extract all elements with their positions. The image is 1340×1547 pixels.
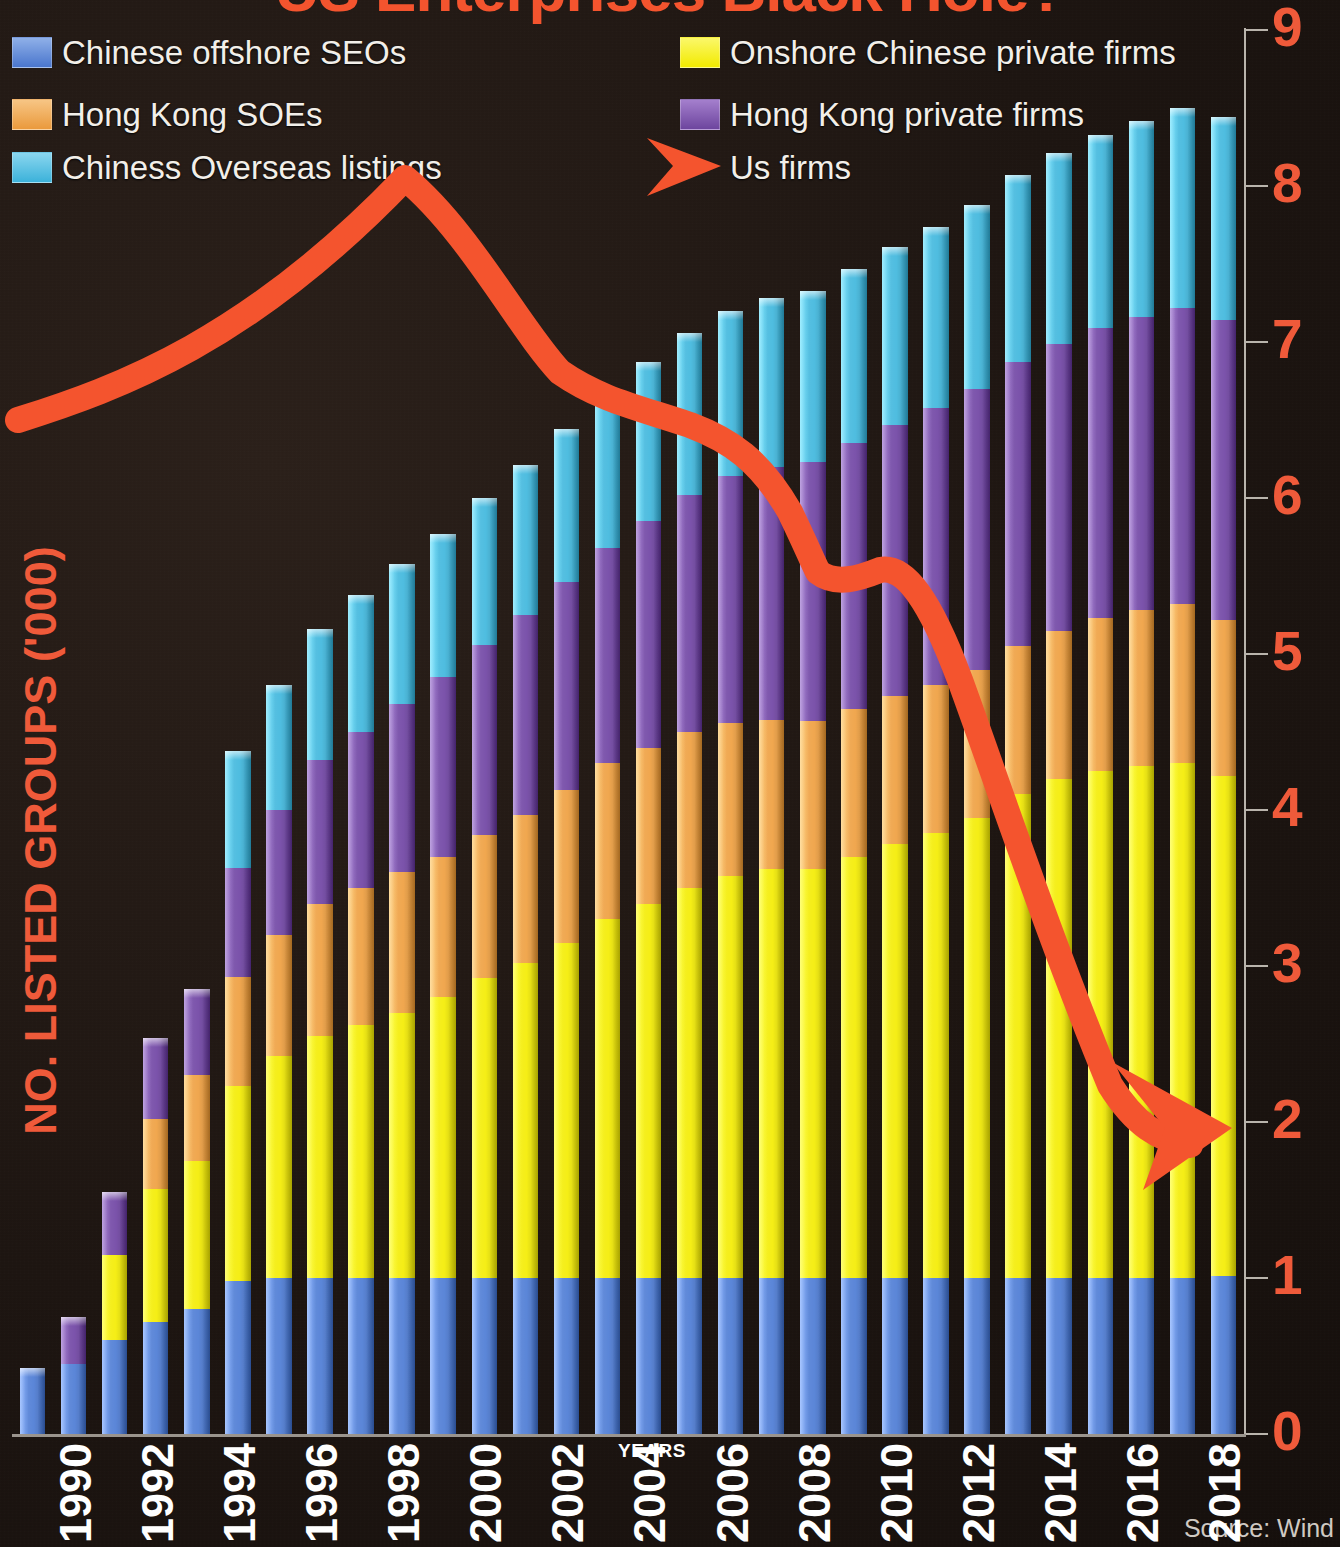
y-tick-label-9: 9 xyxy=(1272,0,1336,55)
bar-segment-chiness-overseas-listings xyxy=(595,392,620,548)
bar-2012[interactable] xyxy=(923,227,948,1434)
bar-segment-onshore-chinese-private-firms xyxy=(225,1086,250,1281)
bar-2002[interactable] xyxy=(513,465,538,1434)
bar-segment-onshore-chinese-private-firms xyxy=(102,1255,127,1341)
bar-segment-onshore-chinese-private-firms xyxy=(1211,776,1236,1277)
bar-segment-hong-kong-private-firms xyxy=(1046,344,1071,631)
bar-2014[interactable] xyxy=(1005,175,1030,1434)
bar-segment-hong-kong-soes xyxy=(348,888,373,1025)
bar-segment-chinese-offshore-seos xyxy=(636,1278,661,1434)
bar-segment-chinese-offshore-seos xyxy=(964,1278,989,1434)
y-axis-title: NO. LISTED GROUPS ('000) xyxy=(18,511,63,1171)
bar-segment-chiness-overseas-listings xyxy=(554,429,579,582)
bar-segment-hong-kong-soes xyxy=(430,857,455,997)
bar-segment-hong-kong-soes xyxy=(143,1119,168,1189)
bar-segment-onshore-chinese-private-firms xyxy=(800,869,825,1278)
bar-segment-hong-kong-private-firms xyxy=(389,704,414,872)
bar-2013[interactable] xyxy=(964,205,989,1434)
bar-segment-onshore-chinese-private-firms xyxy=(677,888,702,1278)
bar-2004[interactable] xyxy=(595,392,620,1434)
bar-segment-hong-kong-soes xyxy=(964,670,989,818)
y-tick-6 xyxy=(1246,497,1268,499)
bar-segment-chinese-offshore-seos xyxy=(20,1368,45,1434)
y-tick-0 xyxy=(1246,1433,1268,1435)
bar-2017[interactable] xyxy=(1129,121,1154,1434)
bar-1996[interactable] xyxy=(266,685,291,1434)
bar-1997[interactable] xyxy=(307,629,332,1434)
bar-segment-onshore-chinese-private-firms xyxy=(595,919,620,1278)
x-tick-label-2014: 2014 xyxy=(1038,1443,1083,1543)
bar-2009[interactable] xyxy=(800,291,825,1434)
bar-segment-chiness-overseas-listings xyxy=(759,298,784,466)
x-tick-label-2004: 2004 xyxy=(627,1443,672,1543)
bar-segment-hong-kong-soes xyxy=(841,709,866,857)
y-tick-label-1: 1 xyxy=(1272,1248,1336,1303)
y-tick-2 xyxy=(1246,1121,1268,1123)
bar-segment-chinese-offshore-seos xyxy=(554,1278,579,1434)
bar-segment-hong-kong-private-firms xyxy=(307,760,332,904)
bar-segment-hong-kong-private-firms xyxy=(1170,308,1195,604)
bar-1990[interactable] xyxy=(20,1368,45,1434)
bar-segment-hong-kong-soes xyxy=(1005,646,1030,794)
bar-segment-chinese-offshore-seos xyxy=(61,1364,86,1434)
y-tick-4 xyxy=(1246,809,1268,811)
bar-segment-chiness-overseas-listings xyxy=(800,291,825,463)
bar-segment-hong-kong-soes xyxy=(472,835,497,979)
y-tick-label-3: 3 xyxy=(1272,936,1336,991)
bar-segment-chinese-offshore-seos xyxy=(1211,1276,1236,1434)
bar-segment-onshore-chinese-private-firms xyxy=(718,876,743,1278)
bar-2000[interactable] xyxy=(430,534,455,1434)
bar-segment-chinese-offshore-seos xyxy=(841,1278,866,1434)
x-tick-label-1992: 1992 xyxy=(135,1443,180,1543)
y-tick-1 xyxy=(1246,1277,1268,1279)
bar-segment-chinese-offshore-seos xyxy=(307,1278,332,1434)
bar-segment-chinese-offshore-seos xyxy=(1088,1278,1113,1434)
bar-1992[interactable] xyxy=(102,1192,127,1434)
x-axis-line xyxy=(12,1434,1246,1437)
bar-2006[interactable] xyxy=(677,333,702,1434)
plot-area xyxy=(12,30,1244,1434)
bar-segment-hong-kong-private-firms xyxy=(554,582,579,789)
bar-segment-onshore-chinese-private-firms xyxy=(841,857,866,1278)
bar-1991[interactable] xyxy=(61,1317,86,1434)
bar-2003[interactable] xyxy=(554,429,579,1434)
bar-2015[interactable] xyxy=(1046,153,1071,1434)
bar-segment-chiness-overseas-listings xyxy=(430,534,455,678)
bar-segment-onshore-chinese-private-firms xyxy=(759,869,784,1278)
bar-2007[interactable] xyxy=(718,311,743,1434)
bar-segment-chiness-overseas-listings xyxy=(1046,153,1071,343)
bar-segment-hong-kong-soes xyxy=(389,872,414,1012)
bar-segment-chinese-offshore-seos xyxy=(1129,1278,1154,1434)
bar-segment-chiness-overseas-listings xyxy=(1005,175,1030,362)
bar-segment-hong-kong-soes xyxy=(513,815,538,963)
bar-2016[interactable] xyxy=(1088,135,1113,1434)
y-axis-line xyxy=(1244,28,1246,1436)
bar-2005[interactable] xyxy=(636,362,661,1434)
bar-segment-hong-kong-soes xyxy=(554,790,579,943)
bar-1995[interactable] xyxy=(225,751,250,1434)
bar-segment-hong-kong-private-firms xyxy=(923,408,948,686)
bar-segment-hong-kong-private-firms xyxy=(677,495,702,732)
bar-segment-hong-kong-soes xyxy=(1046,631,1071,779)
bar-2008[interactable] xyxy=(759,298,784,1434)
bar-segment-hong-kong-soes xyxy=(1088,618,1113,771)
y-tick-label-2: 2 xyxy=(1272,1092,1336,1147)
bar-2011[interactable] xyxy=(882,247,907,1434)
bar-1999[interactable] xyxy=(389,564,414,1434)
bar-1998[interactable] xyxy=(348,595,373,1434)
bar-segment-chiness-overseas-listings xyxy=(964,205,989,389)
bar-1993[interactable] xyxy=(143,1038,168,1434)
bar-segment-chinese-offshore-seos xyxy=(1005,1278,1030,1434)
bar-2010[interactable] xyxy=(841,269,866,1434)
bar-2018[interactable] xyxy=(1170,108,1195,1434)
bar-2019[interactable] xyxy=(1211,117,1236,1434)
bar-2001[interactable] xyxy=(472,498,497,1434)
bar-1994[interactable] xyxy=(184,989,209,1434)
bar-segment-onshore-chinese-private-firms xyxy=(472,978,497,1278)
bar-segment-onshore-chinese-private-firms xyxy=(1129,766,1154,1278)
bar-segment-chiness-overseas-listings xyxy=(225,751,250,868)
bar-segment-onshore-chinese-private-firms xyxy=(882,844,907,1278)
bar-segment-chiness-overseas-listings xyxy=(472,498,497,645)
bar-segment-hong-kong-private-firms xyxy=(595,548,620,763)
bar-segment-hong-kong-private-firms xyxy=(184,989,209,1075)
